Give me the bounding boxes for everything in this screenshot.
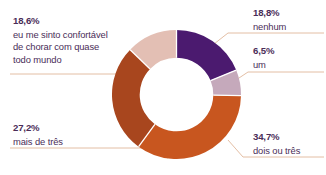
donut-graphic bbox=[111, 29, 242, 160]
donut-chart-figure: 18,8% nenhum 6,5% um 34,7% dois ou três … bbox=[0, 0, 326, 175]
slice-value-nenhum: 18,8% bbox=[253, 7, 286, 19]
slice-category-dois-ou-tres: dois ou três bbox=[253, 145, 300, 157]
slice-category-um: um bbox=[253, 59, 274, 71]
slice-value-um: 6,5% bbox=[253, 45, 274, 57]
slice-divider-3 bbox=[213, 95, 241, 96]
slice-category-nenhum: nenhum bbox=[253, 21, 286, 33]
slice-category-confortavel-line1: eu me sinto confortável bbox=[13, 29, 108, 41]
slice-label-mais-de-tres: 27,2% mais de três bbox=[13, 122, 63, 148]
slice-category-confortavel-line3: todo mundo bbox=[13, 54, 108, 66]
slice-label-confortavel: 18,6% eu me sinto confortável de chorar … bbox=[13, 15, 108, 66]
donut-slice-dois-ou-tres bbox=[139, 95, 241, 159]
donut-slices-svg bbox=[111, 29, 242, 160]
slice-label-um: 6,5% um bbox=[253, 45, 274, 71]
slice-category-confortavel-line2: de chorar com quase bbox=[13, 41, 108, 53]
leader-line-um bbox=[236, 72, 324, 80]
slice-category-confortavel: eu me sinto confortável de chorar com qu… bbox=[13, 29, 108, 66]
slice-label-dois-ou-tres: 34,7% dois ou três bbox=[253, 131, 300, 157]
donut-slice-nenhum bbox=[177, 30, 237, 81]
slice-value-mais-de-tres: 27,2% bbox=[13, 122, 63, 134]
slice-category-mais-de-tres: mais de três bbox=[13, 136, 63, 148]
slice-value-dois-ou-tres: 34,7% bbox=[253, 131, 300, 143]
slice-value-confortavel: 18,6% bbox=[13, 15, 108, 27]
slice-label-nenhum: 18,8% nenhum bbox=[253, 7, 286, 33]
